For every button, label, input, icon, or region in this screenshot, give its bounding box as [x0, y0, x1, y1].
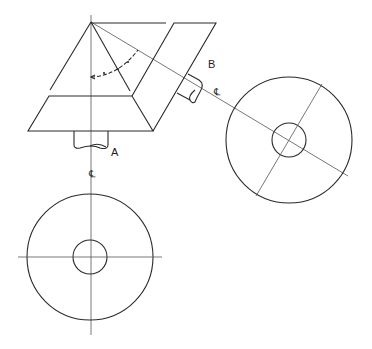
arc-dot — [127, 61, 129, 63]
centerline-symbol-inclined: ℄ — [213, 86, 221, 97]
shaft-b-lower-edge — [177, 93, 190, 100]
centerline-symbol-vertical: ℄ — [88, 168, 96, 179]
pyramid-left-edge — [50, 22, 91, 90]
label-a: A — [111, 146, 119, 158]
frustum-trapezoid — [28, 96, 153, 131]
shaft-b-break — [188, 74, 202, 103]
pyramid-inner-edge — [91, 22, 130, 91]
technical-drawing: A B ℄ ℄ — [0, 0, 372, 349]
label-b: B — [208, 58, 215, 70]
inclined-centerline — [91, 22, 348, 176]
inclined-prism — [132, 23, 216, 131]
arc-dot — [117, 68, 119, 70]
aux-cross-centerline — [256, 84, 322, 196]
arc-dot — [103, 72, 105, 74]
